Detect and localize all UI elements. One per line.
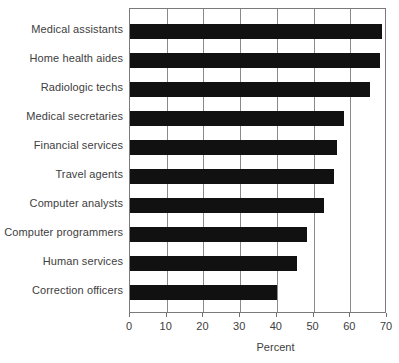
category-label: Medical assistants	[0, 24, 123, 35]
x-tick-mark	[166, 313, 167, 317]
x-tick-label: 0	[109, 320, 149, 332]
category-label: Radiologic techs	[0, 82, 123, 93]
bar	[130, 227, 307, 242]
x-tick-label: 60	[329, 320, 369, 332]
bar	[130, 111, 344, 126]
plot-area	[129, 8, 386, 313]
bar	[130, 24, 382, 39]
x-tick-mark	[276, 313, 277, 317]
x-tick-mark	[386, 313, 387, 317]
bar-chart: Medical assistantsHome health aidesRadio…	[0, 0, 399, 363]
bar	[130, 198, 324, 213]
x-axis-title-text: Percent	[257, 341, 295, 353]
x-axis-tick-marks	[129, 313, 386, 318]
x-axis-title: Percent	[0, 341, 399, 353]
bar	[130, 256, 297, 271]
x-tick-mark	[349, 313, 350, 317]
x-tick-mark	[129, 313, 130, 317]
category-label: Financial services	[0, 140, 123, 151]
x-tick-label: 30	[219, 320, 259, 332]
category-axis-labels: Medical assistantsHome health aidesRadio…	[0, 8, 123, 313]
bar	[130, 140, 337, 155]
bar	[130, 82, 370, 97]
x-tick-label: 50	[293, 320, 333, 332]
category-label: Medical secretaries	[0, 111, 123, 122]
category-label: Home health aides	[0, 53, 123, 64]
bar	[130, 285, 277, 300]
category-label: Travel agents	[0, 169, 123, 180]
bar	[130, 53, 380, 68]
x-tick-mark	[202, 313, 203, 317]
x-tick-label: 20	[182, 320, 222, 332]
x-tick-mark	[313, 313, 314, 317]
x-tick-label: 40	[256, 320, 296, 332]
x-tick-label: 70	[366, 320, 399, 332]
category-label: Human services	[0, 256, 123, 267]
category-label: Computer analysts	[0, 198, 123, 209]
x-tick-label: 10	[146, 320, 186, 332]
bar	[130, 169, 334, 184]
category-label: Computer programmers	[0, 227, 123, 238]
category-label: Correction officers	[0, 285, 123, 296]
x-tick-mark	[239, 313, 240, 317]
x-axis-tick-labels: 010203040506070	[0, 320, 399, 334]
